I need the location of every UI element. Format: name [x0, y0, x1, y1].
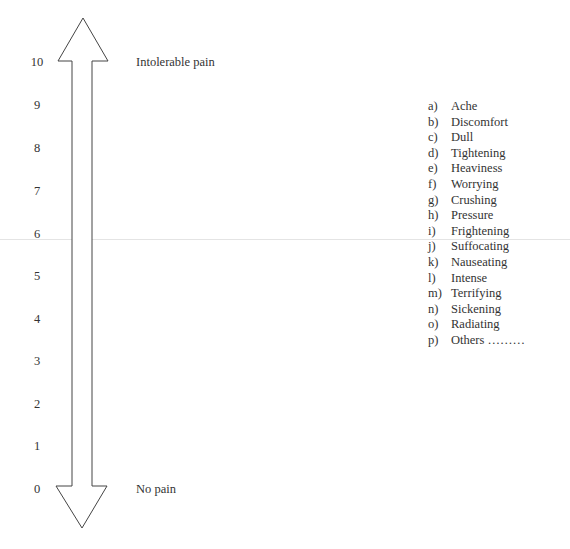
tick-5: 5 — [27, 269, 47, 283]
tick-1: 1 — [27, 439, 47, 453]
list-item: i)Frightening — [428, 224, 525, 240]
list-item: d)Tightening — [428, 146, 525, 162]
list-item: j)Suffocating — [428, 239, 525, 255]
tick-2: 2 — [27, 397, 47, 411]
list-item: f)Worrying — [428, 177, 525, 193]
list-item: o)Radiating — [428, 317, 525, 333]
tick-6: 6 — [27, 227, 47, 241]
tick-10: 10 — [27, 55, 47, 69]
tick-9: 9 — [27, 98, 47, 112]
list-item: p)Others ……… — [428, 333, 525, 349]
tick-0: 0 — [27, 482, 47, 496]
tick-3: 3 — [27, 354, 47, 368]
list-item: m)Terrifying — [428, 286, 525, 302]
list-item: c)Dull — [428, 130, 525, 146]
bottom-label: No pain — [136, 482, 176, 496]
list-item: a)Ache — [428, 99, 525, 115]
tick-8: 8 — [27, 141, 47, 155]
list-item: n)Sickening — [428, 302, 525, 318]
list-item: l)Intense — [428, 271, 525, 287]
list-item: k)Nauseating — [428, 255, 525, 271]
list-item: g)Crushing — [428, 193, 525, 209]
list-item: e)Heaviness — [428, 161, 525, 177]
tick-7: 7 — [27, 184, 47, 198]
tick-4: 4 — [27, 312, 47, 326]
list-item: b)Discomfort — [428, 115, 525, 131]
pain-descriptor-list: a)Ache b)Discomfort c)Dull d)Tightening … — [428, 99, 525, 349]
list-item: h)Pressure — [428, 208, 525, 224]
top-label: Intolerable pain — [136, 55, 215, 69]
